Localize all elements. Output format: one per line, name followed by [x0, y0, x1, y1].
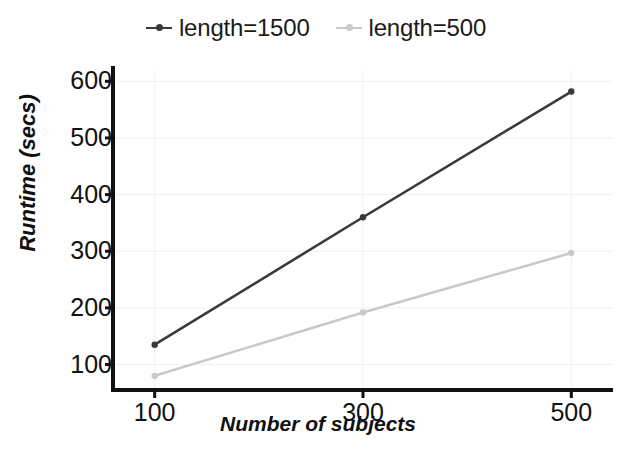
runtime-line-chart: length=1500 length=500 60050040030020010…: [0, 0, 632, 449]
y-axis-title: Runtime (secs): [15, 73, 41, 273]
x-axis-tick-labels: 100300500: [0, 0, 632, 449]
x-tick-label: 500: [531, 400, 611, 425]
x-axis-title: Number of subjects: [118, 412, 518, 436]
plot-area: 600500400300200100 100300500 Runtime (se…: [0, 0, 632, 449]
